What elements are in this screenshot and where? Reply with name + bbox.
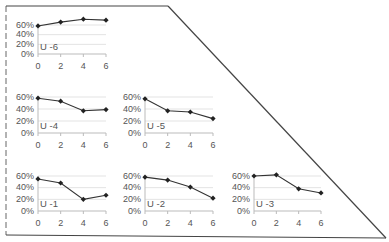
line-plot [0,0,389,242]
x-tick-label: 4 [293,219,305,228]
x-tick-label: 0 [248,219,260,228]
y-tick-label: 0% [218,207,250,216]
diamond-marker-icon [296,186,301,191]
x-tick-label: 6 [315,219,327,228]
diamond-marker-icon [251,173,256,178]
y-tick-label: 60% [218,172,250,181]
x-tick-label: 2 [270,219,282,228]
panel-label: U -3 [256,199,274,209]
y-tick-label: 20% [218,195,250,204]
diamond-marker-icon [318,190,323,195]
diamond-marker-icon [274,172,279,177]
series-line [254,175,321,193]
y-tick-label: 40% [218,183,250,192]
